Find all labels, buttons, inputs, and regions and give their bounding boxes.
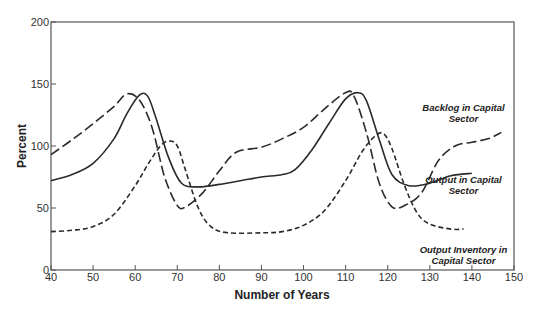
x-tick-label: 110 [337,271,355,283]
x-tick-label: 70 [171,271,183,283]
series-label: Output in CapitalSector [425,174,502,196]
y-tick-label: 0 [43,264,49,276]
x-tick-label: 80 [213,271,225,283]
chart: 4050607080901001101201301401500501001502… [0,0,536,309]
x-tick-label: 90 [255,271,267,283]
x-tick-label: 150 [505,271,523,283]
x-tick-label: 120 [379,271,397,283]
series-labels: Backlog in CapitalSectorOutput in Capita… [420,102,508,265]
y-axis-title: Percent [15,124,29,168]
x-tick-label: 50 [87,271,99,283]
plot-frame [51,22,514,270]
x-tick-label: 130 [421,271,439,283]
x-tick-label: 140 [463,271,481,283]
series-label: Output Inventory inCapital Sector [420,244,508,266]
x-tick-label: 60 [129,271,141,283]
y-tick-label: 100 [31,140,49,152]
x-tick-label: 100 [294,271,312,283]
y-tick-label: 200 [31,16,49,28]
y-tick-label: 50 [37,202,49,214]
y-tick-label: 150 [31,78,49,90]
x-axis-title: Number of Years [234,288,329,302]
series-label: Backlog in CapitalSector [422,102,505,124]
